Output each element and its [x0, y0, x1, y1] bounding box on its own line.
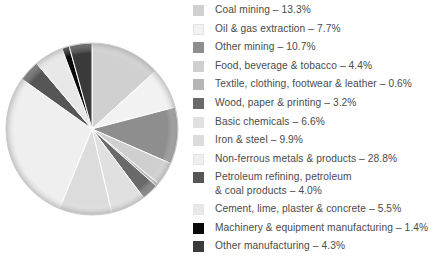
- legend-item-label: Petroleum refining, petroleum & coal pro…: [215, 170, 352, 196]
- legend-color-swatch: [193, 223, 204, 234]
- legend-item[interactable]: Coal mining – 13.3%: [193, 3, 441, 16]
- legend-item[interactable]: Wood, paper & printing – 3.2%: [193, 96, 441, 109]
- pie-chart-figure: Coal mining – 13.3%Oil & gas extraction …: [0, 0, 441, 267]
- legend-item[interactable]: Petroleum refining, petroleum & coal pro…: [193, 170, 441, 196]
- legend-item-label: Coal mining – 13.3%: [215, 3, 311, 16]
- legend-color-swatch: [193, 98, 204, 109]
- legend-item-label: Wood, paper & printing – 3.2%: [215, 96, 357, 109]
- legend-item-label: Food, beverage & tobacco – 4.4%: [215, 59, 372, 72]
- pie-chart-graphic: [0, 0, 188, 267]
- legend-item-label: Cement, lime, plaster & concrete – 5.5%: [215, 202, 401, 215]
- legend-item-label: Iron & steel – 9.9%: [215, 133, 303, 146]
- legend-item[interactable]: Oil & gas extraction – 7.7%: [193, 22, 441, 35]
- legend-color-swatch: [193, 79, 204, 90]
- legend-color-swatch: [193, 204, 204, 215]
- legend-item[interactable]: Food, beverage & tobacco – 4.4%: [193, 59, 441, 72]
- legend-color-swatch: [193, 241, 204, 252]
- legend-item-label: Other manufacturing – 4.3%: [215, 239, 345, 252]
- legend-color-swatch: [193, 5, 204, 16]
- legend-item[interactable]: Machinery & equipment manufacturing – 1.…: [193, 221, 441, 234]
- legend-item-label: Textile, clothing, footwear & leather – …: [215, 77, 412, 90]
- legend-item[interactable]: Iron & steel – 9.9%: [193, 133, 441, 146]
- legend-color-swatch: [193, 135, 204, 146]
- legend-item-label: Other mining – 10.7%: [215, 40, 316, 53]
- legend-item[interactable]: Textile, clothing, footwear & leather – …: [193, 77, 441, 90]
- legend-item-label: Non-ferrous metals & products – 28.8%: [215, 152, 397, 165]
- legend-item[interactable]: Basic chemicals – 6.6%: [193, 115, 441, 128]
- pie-rim: [6, 43, 178, 215]
- chart-legend: Coal mining – 13.3%Oil & gas extraction …: [193, 3, 441, 258]
- legend-item-label: Basic chemicals – 6.6%: [215, 115, 325, 128]
- legend-item[interactable]: Other manufacturing – 4.3%: [193, 239, 441, 252]
- legend-color-swatch: [193, 172, 204, 183]
- legend-color-swatch: [193, 117, 204, 128]
- legend-item-label: Oil & gas extraction – 7.7%: [215, 22, 341, 35]
- legend-item[interactable]: Cement, lime, plaster & concrete – 5.5%: [193, 202, 441, 215]
- legend-item-label: Machinery & equipment manufacturing – 1.…: [215, 221, 428, 234]
- legend-item[interactable]: Non-ferrous metals & products – 28.8%: [193, 152, 441, 165]
- legend-color-swatch: [193, 154, 204, 165]
- legend-color-swatch: [193, 42, 204, 53]
- legend-color-swatch: [193, 61, 204, 72]
- legend-item[interactable]: Other mining – 10.7%: [193, 40, 441, 53]
- pie-svg: [0, 0, 188, 267]
- legend-color-swatch: [193, 24, 204, 35]
